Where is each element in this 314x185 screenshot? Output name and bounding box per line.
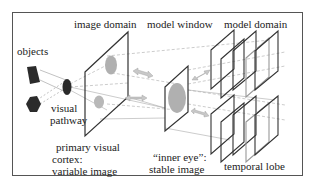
model-domain-stack [211, 30, 278, 98]
label-temporal-lobe: temporal lobe [224, 160, 285, 172]
label-primary-cortex-1: primary visual [56, 141, 120, 153]
label-primary-cortex-3: variable image [52, 165, 117, 177]
label-primary-cortex-2: cortex: [52, 153, 83, 165]
label-model-domain: model domain [224, 18, 287, 30]
diagram-stage: image domain model window model domain o… [0, 0, 314, 185]
label-visual-pathway-2: pathway [50, 114, 87, 126]
object-rays [37, 70, 66, 104]
double-arrow-icon [125, 68, 210, 117]
image-domain-plane [85, 32, 128, 136]
image-blob-upper [105, 56, 117, 75]
temporal-lobe-stack [211, 95, 278, 162]
eye-lens-icon [63, 79, 72, 95]
image-blob-lower [94, 96, 104, 109]
label-image-domain: image domain [74, 18, 137, 30]
object-hexagon-icon [26, 96, 41, 112]
object-parallelogram-icon [27, 66, 40, 84]
label-model-window: model window [147, 18, 213, 30]
stable-image-blob [168, 83, 186, 113]
label-objects: objects [17, 45, 48, 57]
label-visual-pathway-1: visual [51, 102, 77, 114]
label-inner-eye-1: “inner eye”: [153, 151, 206, 163]
label-inner-eye-2: stable image [149, 163, 204, 175]
